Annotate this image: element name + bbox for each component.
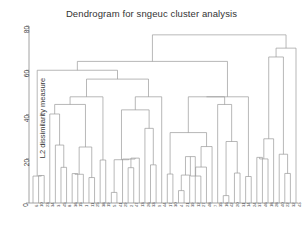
leaf-label: 42 bbox=[230, 202, 234, 207]
y-tick-60: 60 bbox=[23, 70, 30, 77]
y-tick-40: 40 bbox=[23, 115, 30, 122]
dendrogram-plot: Dendrogram for sngeuc cluster analysis L… bbox=[0, 0, 303, 236]
leaf-label: 22 bbox=[286, 202, 290, 207]
leaf-label: 13 bbox=[141, 202, 145, 207]
leaf-label: 35 bbox=[219, 202, 223, 207]
leaf-label: 29 bbox=[124, 202, 128, 207]
leaf-label: 25 bbox=[96, 202, 100, 207]
leaf-label: 10 bbox=[40, 202, 44, 207]
linkage-lines bbox=[33, 35, 296, 203]
y-axis-label: L2 dissimilarity measure bbox=[38, 78, 47, 158]
leaf-label: 39 bbox=[191, 202, 195, 207]
leaf-label: 20 bbox=[236, 202, 240, 207]
leaf-label: 46 bbox=[264, 202, 268, 207]
leaf-label: 48 bbox=[208, 202, 212, 207]
leaf-label: 44 bbox=[163, 202, 167, 207]
y-tick-0: 0 bbox=[23, 203, 30, 207]
y-tick-20: 20 bbox=[23, 159, 30, 166]
leaf-label: 1 bbox=[85, 205, 89, 207]
leaf-label: 4 bbox=[180, 205, 184, 207]
leaf-label: 34 bbox=[51, 202, 55, 207]
chart-title: Dendrogram for sngeuc cluster analysis bbox=[0, 8, 303, 19]
leaf-label: 43 bbox=[298, 202, 302, 207]
leaf-label: 19 bbox=[107, 202, 111, 207]
leaf-label: 33 bbox=[152, 202, 156, 207]
leaf-label: 32 bbox=[292, 202, 296, 207]
leaf-label: 8 bbox=[68, 205, 72, 207]
y-tick-80: 80 bbox=[23, 26, 30, 33]
leaf-label: 3 bbox=[57, 205, 61, 207]
leaf-label: 15 bbox=[79, 202, 83, 207]
leaf-label: 14 bbox=[247, 202, 251, 207]
leaf-label: 5 bbox=[113, 205, 117, 207]
leaf-label: 47 bbox=[135, 202, 139, 207]
leaf-label: 37 bbox=[258, 202, 262, 207]
leaf-label: 28 bbox=[275, 202, 279, 207]
